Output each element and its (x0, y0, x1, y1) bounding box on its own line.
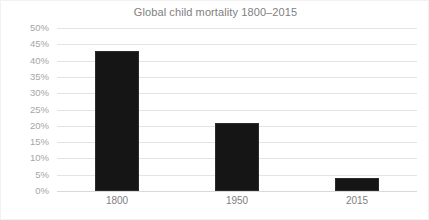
y-axis-tick-label: 5% (9, 170, 49, 180)
x-axis-tick-label: 1800 (57, 196, 177, 206)
y-axis-tick-label: 30% (9, 88, 49, 98)
y-axis-tick-label: 40% (9, 56, 49, 66)
y-axis-tick-label: 0% (9, 186, 49, 196)
y-axis-tick-label: 10% (9, 153, 49, 163)
y-axis-tick-label: 35% (9, 72, 49, 82)
chart-title: Global child mortality 1800–2015 (1, 6, 429, 18)
bar (95, 51, 139, 191)
y-axis-tick-label: 45% (9, 39, 49, 49)
y-axis-tick-label: 25% (9, 105, 49, 115)
bar (215, 123, 259, 191)
y-axis-tick-label: 20% (9, 121, 49, 131)
y-axis-tick-label: 15% (9, 137, 49, 147)
x-axis-tick-label: 2015 (297, 196, 417, 206)
gridline (57, 191, 417, 192)
plot-area (57, 28, 417, 191)
x-axis-tick-label: 1950 (177, 196, 297, 206)
bar (335, 178, 379, 191)
chart-container: Global child mortality 1800–2015 50%45%4… (0, 0, 429, 220)
y-axis-tick-label: 50% (9, 23, 49, 33)
